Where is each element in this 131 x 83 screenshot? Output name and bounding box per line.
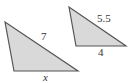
similar-triangles-figure: 7 x 5.5 4	[0, 0, 131, 83]
large-triangle-hypotenuse-label: 7	[41, 30, 47, 42]
small-triangle-hypotenuse-label: 5.5	[97, 12, 111, 24]
large-triangle-base-label: x	[42, 71, 48, 83]
small-triangle-base-label: 4	[98, 46, 104, 58]
